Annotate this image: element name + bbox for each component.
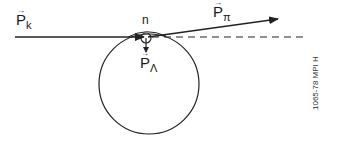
pion-momentum-label: →Pπ <box>213 4 231 20</box>
lambda-momentum-label: →PΛ <box>140 55 157 71</box>
kaon-momentum-label: →Pk <box>16 12 32 28</box>
figure-id-note: 1065-78 MPI H <box>310 20 322 110</box>
neutron-label: n <box>142 14 149 26</box>
momentum-sphere <box>99 34 199 134</box>
pion-momentum-arrow <box>148 19 278 37</box>
diagram-canvas <box>0 0 337 144</box>
